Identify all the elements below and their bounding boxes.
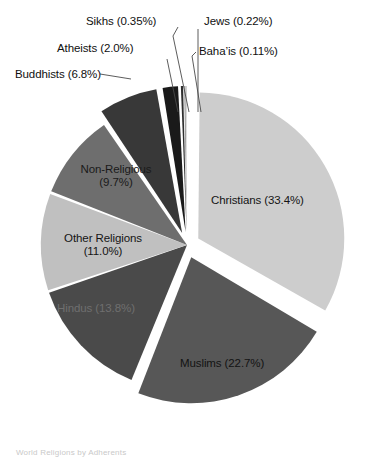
- slice-label-other-religions: Other Religions (11.0%): [38, 232, 168, 258]
- slice-label-non-religious-line2: (9.7%): [57, 176, 175, 189]
- slice-label-jews: Jews (0.22%): [204, 15, 272, 27]
- slice-label-other-religions-line1: Other Religions: [38, 232, 168, 245]
- slice-label-sikhs: Sikhs (0.35%): [86, 15, 156, 27]
- slice-label-atheists: Atheists (2.0%): [57, 42, 133, 54]
- leader-line-buddhists: [100, 74, 131, 79]
- leader-line-bahais: [192, 52, 201, 112]
- chart-caption: World Religions by Adherents: [16, 448, 126, 457]
- slice-label-non-religious-line1: Non-Religious: [57, 163, 175, 176]
- slice-label-other-religions-line2: (11.0%): [38, 245, 168, 258]
- slice-label-non-religious: Non-Religious (9.7%): [57, 163, 175, 189]
- slice-label-buddhists: Buddhists (6.8%): [15, 68, 101, 80]
- slice-label-muslims: Muslims (22.7%): [180, 357, 264, 370]
- slice-label-hindus: Hindus (13.8%): [57, 302, 135, 315]
- slice-label-christians: Christians (33.4%): [211, 194, 304, 207]
- slice-label-bahais: Baha’is (0.11%): [199, 45, 278, 57]
